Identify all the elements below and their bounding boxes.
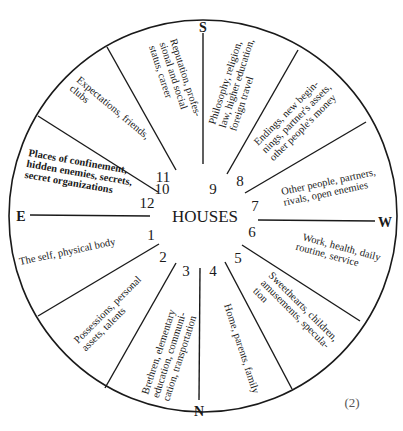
house-9-description: Philosophy, religion, law, higher educat… (206, 34, 266, 132)
house-number-3: 3 (182, 263, 190, 279)
svg-text:amusements, specula-: amusements, specula- (259, 277, 332, 350)
house-6-description: Work, health, daily routine, service (295, 230, 383, 273)
house-11-description: Expectations, friends, clubs (68, 74, 152, 150)
house-4-description: Home, parents, family (222, 302, 262, 395)
west-axis-line (258, 220, 375, 221)
svg-text:nings, partner's assets,: nings, partner's assets, (259, 81, 333, 155)
house-8-description: Endings, new begin- nings, partner's ass… (252, 74, 341, 163)
svg-text:Home, parents, family: Home, parents, family (222, 302, 262, 395)
house-10-description: Reputation, profes- sional and social st… (147, 37, 204, 125)
direction-east: E (16, 209, 25, 224)
house-5-description: Sweethearts, children, amusements, specu… (251, 270, 340, 359)
direction-west: W (378, 215, 392, 230)
east-axis-line (30, 215, 150, 216)
house-number-9: 9 (209, 181, 217, 197)
house-number-1: 1 (147, 227, 155, 243)
house-number-12: 12 (140, 195, 155, 211)
svg-text:The self, physical body: The self, physical body (18, 236, 117, 267)
svg-text:Possessions, personal: Possessions, personal (72, 274, 144, 346)
figure-number: (2) (344, 395, 359, 410)
svg-text:Expectations, friends,: Expectations, friends, (75, 74, 152, 141)
house-3-description: Brethren, elementary education, communi-… (139, 307, 198, 403)
house-number-8: 8 (236, 173, 244, 189)
house-number-4: 4 (209, 263, 217, 279)
house-2-description: Possessions, personal assets, talents (72, 274, 152, 354)
house-number-11: 11 (156, 169, 170, 185)
direction-south: S (199, 20, 207, 35)
house-7-description: Other people, partners, rivals, open ene… (280, 166, 379, 208)
house-1-description: The self, physical body (18, 236, 117, 267)
house-number-6: 6 (248, 224, 256, 240)
diagram-title: HOUSES (172, 207, 238, 226)
direction-north: N (194, 404, 204, 419)
house-number-7: 7 (251, 198, 259, 214)
house-number-2: 2 (159, 249, 167, 265)
houses-wheel-diagram: S N E W HOUSES 10 9 8 7 6 5 4 3 2 1 12 1… (0, 0, 403, 431)
house-number-5: 5 (234, 250, 242, 266)
svg-text:Sweethearts, children,: Sweethearts, children, (267, 270, 341, 344)
house-12-description: Places of confinement, hidden enemies, s… (24, 147, 136, 198)
north-axis-line (199, 268, 200, 400)
